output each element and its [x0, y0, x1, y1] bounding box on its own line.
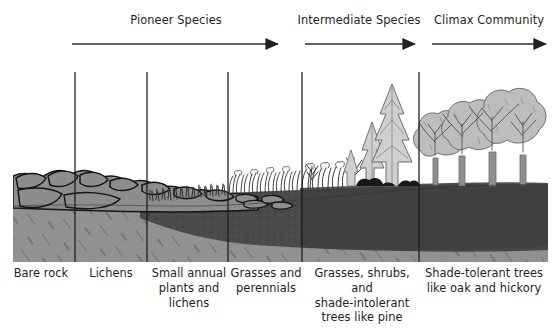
- stage-label-lichens: Lichens: [77, 266, 145, 281]
- conifer-trees: [344, 84, 420, 186]
- stage-label-line: Shade-tolerant trees: [421, 266, 547, 281]
- stage-label-line: perennials: [230, 281, 302, 296]
- stage-label-line: plants and: [149, 281, 229, 296]
- conifer-small: [344, 150, 358, 186]
- stage-label-bare-rock: Bare rock: [8, 266, 74, 281]
- stage-label-line: Grasses, shrubs, and: [303, 266, 421, 296]
- stage-label-line: trees like pine: [303, 310, 421, 325]
- ecological-succession-diagram: Pioneer Species Intermediate Species Cli…: [0, 0, 554, 333]
- conifer-tall: [372, 84, 412, 186]
- header-label-climax-community: Climax Community: [428, 14, 550, 27]
- stage-label-line: Grasses and: [230, 266, 302, 281]
- tree-trunks: [433, 152, 526, 186]
- stage-label-line: Small annual: [149, 266, 229, 281]
- stage-label-line: shade-intolerant: [303, 296, 421, 311]
- stage-label-line: like oak and hickory: [421, 281, 547, 296]
- header-label-intermediate-species: Intermediate Species: [297, 14, 421, 27]
- stage-label-shade-tolerant-trees: Shade-tolerant trees like oak and hickor…: [421, 266, 547, 296]
- grasses-perennials-vegetation: [229, 166, 300, 195]
- stage-label-line: lichens: [149, 296, 229, 311]
- tree-canopies: [413, 88, 545, 156]
- stage-label-line: Lichens: [77, 266, 145, 281]
- stage-label-small-annual-plants-and-lichens: Small annual plants and lichens: [149, 266, 229, 310]
- stage-label-grasses-shrubs-shade-intolerant-trees: Grasses, shrubs, and shade-intolerant tr…: [303, 266, 421, 325]
- deciduous-trees: [413, 88, 545, 186]
- stage-label-grasses-and-perennials: Grasses and perennials: [230, 266, 302, 296]
- stage-label-line: Bare rock: [8, 266, 74, 281]
